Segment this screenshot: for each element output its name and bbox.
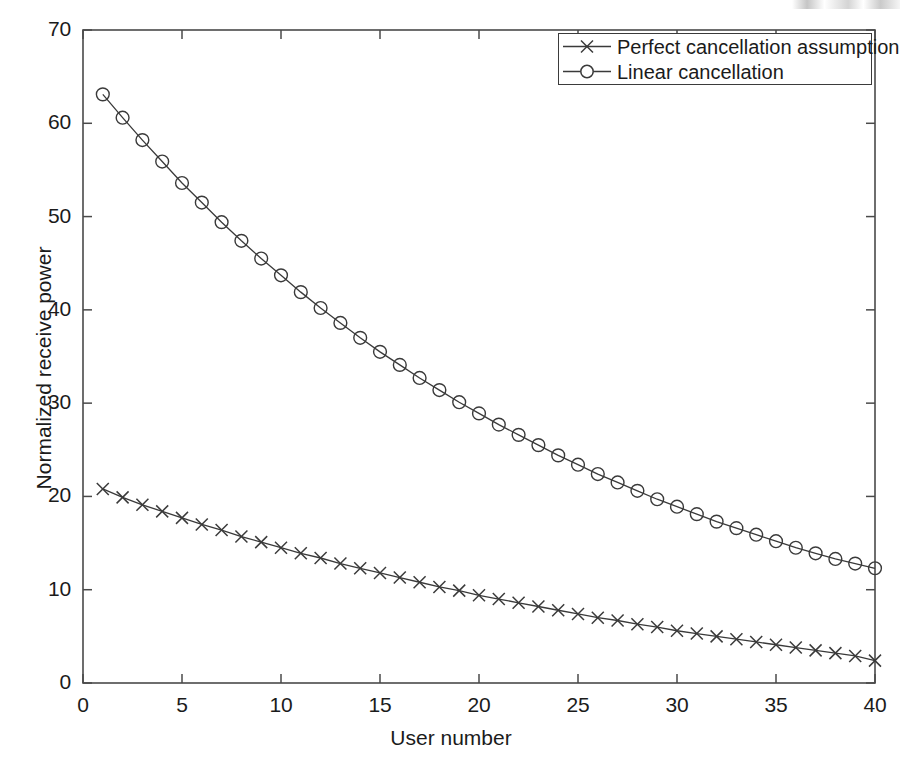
y-axis-title: Normalized receive power	[32, 218, 56, 518]
legend-entry-linear-cancellation: Linear cancellation	[559, 59, 871, 84]
axis-ticks	[83, 30, 875, 683]
x-tick-label: 5	[152, 693, 212, 717]
legend-marker-circle-icon	[559, 59, 615, 84]
y-tick-label: 0	[19, 670, 71, 694]
plot-frame	[83, 30, 875, 683]
y-tick-label: 10	[19, 577, 71, 601]
data-series-linear-cancellation	[96, 88, 881, 575]
y-tick-label: 60	[19, 110, 71, 134]
legend-label-linear-cancellation: Linear cancellation	[615, 62, 784, 82]
x-tick-label: 0	[53, 693, 113, 717]
x-tick-label: 30	[647, 693, 707, 717]
y-tick-label: 70	[19, 17, 71, 41]
x-tick-label: 20	[449, 693, 509, 717]
x-tick-label: 25	[548, 693, 608, 717]
legend-entry-perfect-cancellation: Perfect cancellation assumption	[559, 34, 871, 59]
chart-figure: 0102030405060700510152025303540 Normaliz…	[0, 0, 902, 759]
x-tick-label: 40	[845, 693, 902, 717]
chart-legend: Perfect cancellation assumption Linear c…	[558, 33, 872, 85]
plot-area	[0, 0, 902, 759]
x-tick-label: 10	[251, 693, 311, 717]
data-series-group	[96, 88, 881, 667]
legend-marker-x-icon	[559, 34, 615, 59]
x-axis-title: User number	[0, 726, 902, 750]
legend-label-perfect-cancellation: Perfect cancellation assumption	[615, 37, 899, 57]
x-tick-label: 35	[746, 693, 806, 717]
x-tick-label: 15	[350, 693, 410, 717]
data-series-perfect-cancellation	[97, 483, 881, 667]
